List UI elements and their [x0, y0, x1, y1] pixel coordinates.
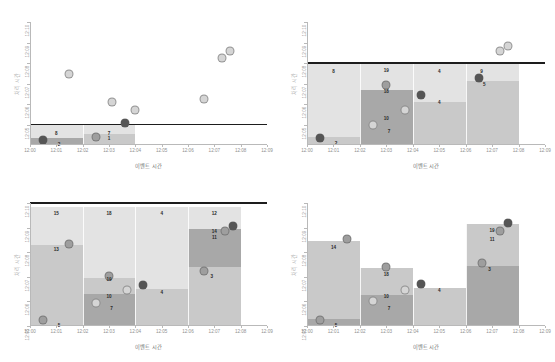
- x-axis-label: 이벤트 시간: [30, 162, 267, 169]
- data-point[interactable]: [123, 286, 132, 295]
- data-point[interactable]: [342, 234, 351, 243]
- y-tick-label: 12:05: [25, 329, 30, 341]
- data-point-label: 7: [388, 128, 391, 133]
- data-point[interactable]: [131, 106, 140, 115]
- x-tick-mark: [135, 145, 136, 147]
- data-point-label: 12: [212, 210, 217, 215]
- x-tick-label: 12:00: [24, 148, 36, 153]
- data-point-label: 4: [438, 69, 441, 74]
- y-tick-mark: [304, 277, 307, 278]
- x-tick-mark: [439, 145, 440, 147]
- x-tick-label: 12:06: [460, 329, 472, 334]
- y-tick-label: 12:07: [25, 279, 30, 291]
- y-tick-label: 12:10: [25, 25, 30, 37]
- data-point[interactable]: [107, 97, 116, 106]
- data-point[interactable]: [400, 286, 409, 295]
- y-tick-label: 12:10: [302, 25, 307, 37]
- y-tick-label: 12:10: [25, 206, 30, 218]
- y-tick-mark: [304, 43, 307, 44]
- data-point[interactable]: [91, 298, 100, 307]
- data-point[interactable]: [496, 227, 505, 236]
- data-point[interactable]: [65, 70, 74, 79]
- bar-divider: [83, 22, 84, 145]
- y-axis-label: 처리 시간: [13, 254, 20, 275]
- data-point-label: 3: [488, 267, 491, 272]
- y-tick-mark: [27, 63, 30, 64]
- bar: [466, 22, 519, 145]
- x-axis-label: 이벤트 시간: [30, 343, 267, 350]
- data-point[interactable]: [400, 106, 409, 115]
- bar-segment: [30, 245, 83, 326]
- data-point[interactable]: [416, 90, 425, 99]
- x-tick-label: 12:01: [51, 329, 63, 334]
- y-tick-mark: [27, 277, 30, 278]
- data-point[interactable]: [218, 53, 227, 62]
- data-point[interactable]: [120, 119, 129, 128]
- data-point-label: 10: [384, 294, 389, 299]
- data-point[interactable]: [199, 266, 208, 275]
- y-tick-mark: [27, 228, 30, 229]
- x-tick-mark: [333, 326, 334, 328]
- x-axis: [307, 325, 545, 326]
- x-tick-label: 12:09: [261, 329, 273, 334]
- data-point[interactable]: [477, 259, 486, 268]
- y-tick-label: 12:08: [25, 255, 30, 267]
- bar-segment: [83, 207, 136, 278]
- x-tick-mark: [545, 145, 546, 147]
- data-point-label: 11: [490, 236, 495, 241]
- y-tick-mark: [27, 301, 30, 302]
- y-tick-mark: [304, 252, 307, 253]
- y-axis: [30, 22, 31, 145]
- x-tick-mark: [307, 145, 308, 147]
- data-point[interactable]: [416, 280, 425, 289]
- x-tick-mark: [188, 145, 189, 147]
- bar: [30, 203, 83, 326]
- panel-top-right: 821918107449512:0012:0112:0212:0312:0412…: [277, 0, 555, 181]
- data-point[interactable]: [474, 74, 483, 83]
- x-tick-label: 12:07: [209, 329, 221, 334]
- y-tick-label: 12:10: [302, 206, 307, 218]
- data-point-label: 4: [438, 99, 441, 104]
- x-tick-mark: [413, 145, 414, 147]
- data-point[interactable]: [139, 281, 148, 290]
- data-point-label: 19: [106, 277, 111, 282]
- x-tick-label: 12:00: [301, 148, 313, 153]
- data-point[interactable]: [503, 41, 512, 50]
- bar-segment: [307, 241, 360, 318]
- bar: [413, 22, 466, 145]
- data-point[interactable]: [316, 133, 325, 142]
- x-tick-mark: [492, 145, 493, 147]
- data-point-label: 5: [483, 81, 486, 86]
- data-point[interactable]: [503, 218, 512, 227]
- data-point-label: 18: [384, 272, 389, 277]
- x-tick-label: 12:09: [261, 148, 273, 153]
- x-tick-mark: [109, 145, 110, 147]
- x-axis-label: 이벤트 시간: [307, 343, 545, 350]
- data-point[interactable]: [91, 132, 100, 141]
- data-point[interactable]: [226, 46, 235, 55]
- y-tick-mark: [27, 84, 30, 85]
- x-tick-mark: [360, 145, 361, 147]
- data-point-label: 4: [438, 288, 441, 293]
- data-point[interactable]: [316, 315, 325, 324]
- bar-divider: [135, 203, 136, 326]
- figure-grid: 827112:0012:0112:0212:0312:0412:0512:061…: [0, 0, 555, 362]
- data-point[interactable]: [382, 262, 391, 271]
- panel-bottom-left: 15135181910744121411312:0012:0112:0212:0…: [0, 181, 277, 362]
- x-tick-label: 12:07: [486, 148, 498, 153]
- data-point[interactable]: [369, 120, 378, 129]
- data-point[interactable]: [369, 297, 378, 306]
- data-point[interactable]: [199, 94, 208, 103]
- x-tick-label: 12:01: [328, 148, 340, 153]
- x-tick-mark: [439, 326, 440, 328]
- data-point[interactable]: [39, 315, 48, 324]
- bar-segment: [135, 289, 188, 326]
- x-axis-label: 이벤트 시간: [307, 162, 545, 169]
- data-point[interactable]: [228, 222, 237, 231]
- data-point-label: 18: [106, 210, 111, 215]
- x-tick-mark: [188, 326, 189, 328]
- x-tick-label: 12:07: [486, 329, 498, 334]
- bar-divider: [188, 203, 189, 326]
- data-point[interactable]: [65, 239, 74, 248]
- bar: [307, 203, 360, 326]
